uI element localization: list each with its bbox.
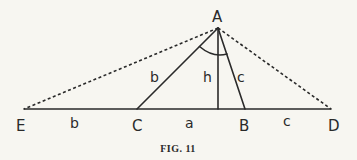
angle-arc-a — [200, 47, 228, 56]
label-a-vertex: A — [212, 8, 223, 26]
dashed-line-ad — [218, 28, 331, 109]
label-c-vertex: C — [132, 117, 142, 135]
label-altitude-h: h — [203, 69, 212, 85]
label-e-vertex: E — [16, 117, 25, 135]
label-segment-ec: b — [70, 115, 79, 131]
label-side-ac: b — [150, 69, 159, 85]
label-segment-cb: a — [185, 115, 194, 131]
figure-caption: FIG. 11 — [160, 143, 196, 154]
dashed-line-ae — [24, 28, 218, 109]
label-side-ab: c — [237, 69, 245, 85]
label-d-vertex: D — [328, 117, 340, 135]
label-segment-bd: c — [283, 113, 291, 129]
label-b-vertex: B — [239, 117, 249, 135]
triangle-diagram: A E C B D b h c b a c FIG. 11 — [0, 0, 357, 160]
